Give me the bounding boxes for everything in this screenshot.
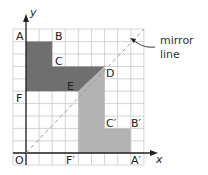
origin-label: O [15, 155, 24, 166]
point-a-prime-label: A′ [131, 155, 141, 166]
point-d-label: D [106, 68, 114, 79]
y-axis-arrow-icon [23, 14, 29, 22]
point-c-label: C [55, 56, 63, 67]
y-axis-label: y [30, 7, 37, 18]
point-a-label: A [16, 31, 24, 42]
point-e-label: E [67, 81, 74, 92]
point-f-label: F [16, 93, 22, 104]
mirror-line-annotation: mirror line [160, 34, 194, 62]
reflection-diagram [0, 0, 208, 175]
point-b-label: B [55, 31, 63, 42]
point-c-prime-label: C′ [106, 118, 116, 129]
annotation-line1: mirror [160, 34, 194, 48]
x-axis-label: x [156, 154, 163, 165]
point-f-prime-label: F′ [66, 155, 75, 166]
annotation-line2: line [160, 48, 194, 62]
point-b-prime-label: B′ [131, 118, 141, 129]
